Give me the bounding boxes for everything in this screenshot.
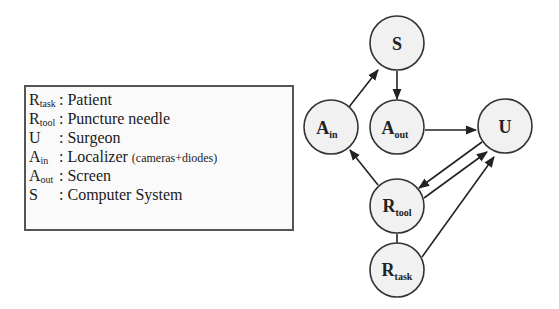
edge-rtool-to-u (424, 152, 487, 198)
svg-text:U: U (499, 117, 512, 137)
edge-u-to-rtool (419, 142, 482, 188)
edge-ain-to-s (349, 70, 378, 107)
svg-text:S: S (392, 34, 402, 54)
node-r-tool: Rtool (370, 179, 424, 233)
node-a-in: Ain (304, 100, 358, 154)
system-graph: S Ain Aout U Rtool Rtask (0, 0, 559, 309)
node-r-task: Rtask (370, 243, 424, 297)
node-a-out: Aout (370, 100, 424, 154)
node-s: S (370, 16, 424, 70)
edge-rtool-to-ain (350, 150, 378, 185)
edge-rtask-to-u (422, 157, 494, 257)
node-u: U (478, 99, 532, 153)
